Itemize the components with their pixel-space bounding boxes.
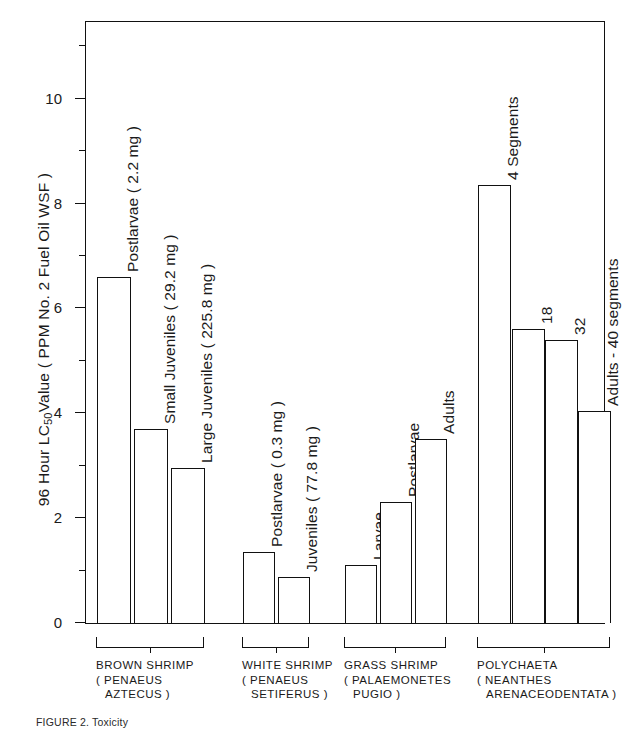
group-bracket [242,637,309,648]
group-species-line-1: ( PALAEMONETES [344,673,446,688]
y-axis-major-tick: 8 [75,203,86,204]
group-bracket [96,637,204,648]
group-bracket [477,637,610,648]
y-axis-major-tick: 10 [75,98,86,99]
y-axis-major-tick: 6 [75,307,86,308]
bar [415,439,447,623]
bar-label: Postlarvae ( 0.3 mg ) [269,401,285,547]
group-caption: WHITE SHRIMP( PENAEUSSETIFERUS ) [242,658,309,702]
group-species-line-2: ARENACEODENTATA ) [477,687,610,702]
y-axis-minor-tick [79,45,86,46]
group-bracket [344,637,446,648]
group-common-name: WHITE SHRIMP [242,658,309,673]
plot-area: 0246810 Postlarvae ( 2.2 mg )Small Juven… [85,21,605,624]
bar-label: Adults - 40 segments [605,258,621,406]
group-common-name: GRASS SHRIMP [344,658,446,673]
bar [478,185,511,623]
y-axis-tick-label: 0 [22,613,62,633]
y-axis-tick-label: 8 [22,194,62,214]
y-axis-tick-label: 10 [22,89,62,109]
bar [97,277,131,623]
y-axis-tick-label: 4 [22,403,62,423]
bar [171,468,205,623]
bar [545,340,578,623]
group-bracket-stem [395,647,396,653]
group-species-line-1: ( PENAEUS [242,673,309,688]
y-axis-tick-label: 6 [22,298,62,318]
y-axis-minor-tick [79,255,86,256]
bar [278,577,310,623]
x-axis-group: WHITE SHRIMP( PENAEUSSETIFERUS ) [242,637,309,702]
bar-label: 32 [572,317,588,334]
figure-caption: FIGURE 2. Toxicity [36,716,128,728]
group-bracket-stem [150,647,151,653]
group-species-line-1: ( PENAEUS [96,673,204,688]
x-axis-group: BROWN SHRIMP( PENAEUSAZTECUS ) [96,637,204,702]
x-axis-group: POLYCHAETA( NEANTHESARENACEODENTATA ) [477,637,610,702]
bar-label: Postlarvae ( 2.2 mg ) [125,126,141,272]
group-species-line-2: SETIFERUS ) [242,687,309,702]
group-caption: BROWN SHRIMP( PENAEUSAZTECUS ) [96,658,204,702]
bar [345,565,377,623]
bar [134,429,168,623]
group-bracket-stem [544,647,545,653]
bar-label: Juveniles ( 77.8 mg ) [304,426,320,572]
y-axis-title-pre: 96 Hour LC [35,425,52,506]
group-common-name: POLYCHAETA [477,658,610,673]
bar [578,411,611,623]
y-axis-major-tick: 2 [75,517,86,518]
bar [380,502,412,623]
bar [512,329,545,623]
group-species-line-2: AZTECUS ) [96,687,204,702]
group-species-line-1: ( NEANTHES [477,673,610,688]
y-axis-major-tick: 0 [75,622,86,623]
figure-chart: 96 Hour LC50Value ( PPM No. 2 Fuel Oil W… [0,0,631,729]
y-axis-minor-tick [79,570,86,571]
group-caption: GRASS SHRIMP( PALAEMONETESPUGIO ) [344,658,446,702]
y-axis-major-tick: 4 [75,412,86,413]
bar-label: Large Juveniles ( 225.8 mg ) [199,264,215,463]
x-axis-group: GRASS SHRIMP( PALAEMONETESPUGIO ) [344,637,446,702]
y-axis-minor-tick [79,150,86,151]
y-axis-minor-tick [79,360,86,361]
bar-label: 18 [539,307,555,324]
group-common-name: BROWN SHRIMP [96,658,204,673]
bar-label: 4 Segments [505,96,521,180]
bar-label: Small Juveniles ( 29.2 mg ) [162,234,178,424]
y-axis-title: 96 Hour LC50Value ( PPM No. 2 Fuel Oil W… [35,30,54,650]
group-bracket-stem [276,647,277,653]
y-axis-tick-label: 2 [22,508,62,528]
bar-label: Adults [441,391,457,435]
group-species-line-2: PUGIO ) [344,687,446,702]
group-caption: POLYCHAETA( NEANTHESARENACEODENTATA ) [477,658,610,702]
y-axis-minor-tick [79,465,86,466]
bar [243,552,275,623]
